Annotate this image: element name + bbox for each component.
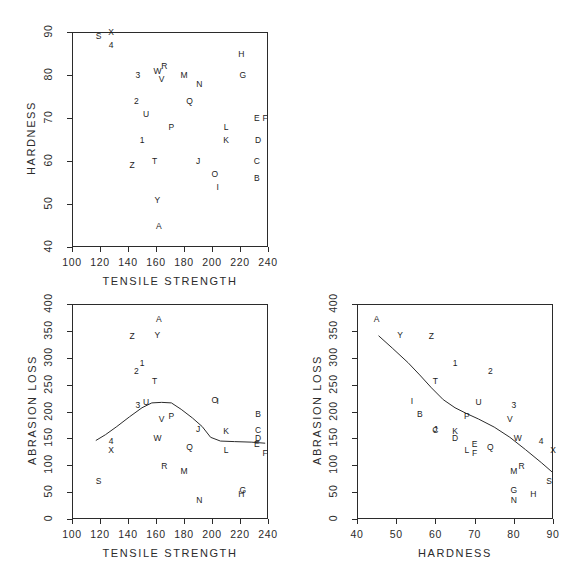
x-axis-tick (184, 519, 185, 524)
data-point-label: J (433, 424, 437, 433)
data-point-label: P (169, 412, 175, 421)
data-point-label: A (374, 315, 380, 324)
y-axis-tick-label: 80 (42, 58, 54, 90)
data-point-label: T (152, 157, 157, 166)
data-point-label: W (514, 434, 522, 443)
data-point-label: B (254, 174, 260, 183)
data-point-label: U (143, 109, 149, 118)
y-axis-tick-label: 400 (42, 287, 54, 319)
y-axis-tick (67, 118, 72, 119)
y-axis-tick (352, 492, 357, 493)
y-axis-tick-label: 60 (42, 144, 54, 176)
data-point-label: U (475, 398, 481, 407)
data-point-label: A (156, 315, 162, 324)
data-point-label: A (156, 221, 162, 230)
data-point-label: R (161, 62, 167, 71)
panel-abrasion-vs-hardness: ABRASION LOSS HARDNESS 40506070809005010… (282, 292, 570, 582)
x-axis-tick (128, 519, 129, 524)
data-point-label: N (511, 495, 517, 504)
data-point-label: 2 (488, 366, 493, 375)
y-axis-tick (352, 304, 357, 305)
data-point-label: J (196, 424, 200, 433)
data-point-label: F (472, 449, 477, 458)
panel-abrasion-vs-tensile: ABRASION LOSS TENSILE STRENGTH 100120140… (0, 292, 290, 582)
x-axis-tick-label: 200 (202, 528, 221, 540)
x-axis-tick-label: 240 (258, 256, 277, 268)
data-point-label: 1 (140, 135, 145, 144)
x-axis-tick-label: 70 (468, 528, 481, 540)
data-point-label: 1 (453, 359, 458, 368)
y-axis-tick (67, 492, 72, 493)
x-axis-tick-label: 100 (62, 528, 81, 540)
y-axis-tick (67, 331, 72, 332)
y-axis-tick (67, 32, 72, 33)
x-axis-tick-label: 160 (146, 256, 165, 268)
y-axis-tick (352, 331, 357, 332)
x-axis-tick-label: 220 (230, 256, 249, 268)
x-axis-tick (156, 519, 157, 524)
x-axis-tick (212, 247, 213, 252)
data-point-label: X (550, 446, 556, 455)
data-point-label: T (433, 377, 438, 386)
data-point-label: 3 (135, 400, 140, 409)
y-axis-title: ABRASION LOSS (311, 350, 323, 470)
data-point-label: Y (155, 331, 161, 340)
x-axis-tick (72, 247, 73, 252)
data-point-label: I (411, 397, 413, 406)
x-axis-tick-label: 180 (174, 528, 193, 540)
data-point-label: V (159, 75, 165, 84)
data-point-label: L (224, 446, 229, 455)
y-axis-tick (352, 438, 357, 439)
data-point-label: H (238, 489, 244, 498)
data-point-label: I (216, 183, 218, 192)
y-axis-tick (67, 247, 72, 248)
y-axis-tick (67, 519, 72, 520)
x-axis-tick (240, 247, 241, 252)
x-axis-tick-label: 40 (351, 528, 364, 540)
data-point-label: V (159, 415, 165, 424)
x-axis-tick-label: 180 (174, 256, 193, 268)
data-point-label: P (464, 412, 470, 421)
plot-frame (72, 32, 268, 247)
data-point-label: M (180, 467, 187, 476)
data-point-label: M (180, 71, 187, 80)
x-axis-title: TENSILE STRENGTH (72, 275, 268, 287)
y-axis-tick (352, 465, 357, 466)
x-axis-tick (100, 519, 101, 524)
data-point-label: S (546, 477, 552, 486)
plot-frame (357, 304, 553, 519)
x-axis-tick (396, 519, 397, 524)
x-axis-tick-label: 60 (429, 528, 442, 540)
y-axis-tick (352, 358, 357, 359)
y-axis-tick (67, 304, 72, 305)
data-point-label: V (507, 415, 513, 424)
data-point-label: G (510, 486, 517, 495)
y-axis-tick (352, 412, 357, 413)
data-point-label: P (169, 122, 175, 131)
data-point-label: F (263, 114, 268, 123)
x-axis-tick-label: 50 (390, 528, 403, 540)
x-axis-tick-label: 100 (62, 256, 81, 268)
y-axis-tick (352, 519, 357, 520)
data-point-label: Z (130, 331, 135, 340)
data-point-label: L (224, 122, 229, 131)
data-point-label: K (223, 135, 229, 144)
data-point-label: E (254, 114, 260, 123)
x-axis-tick-label: 220 (230, 528, 249, 540)
y-axis-tick (67, 385, 72, 386)
x-axis-tick (268, 519, 269, 524)
y-axis-tick-label: 100 (42, 448, 54, 480)
data-point-label: 3 (135, 71, 140, 80)
x-axis-tick-label: 120 (90, 528, 109, 540)
y-axis-title: ABRASION LOSS (26, 350, 38, 470)
data-point-label: L (464, 446, 469, 455)
x-axis-title: HARDNESS (357, 547, 553, 559)
data-point-label: E (254, 440, 260, 449)
data-point-label: N (196, 79, 202, 88)
x-axis-tick (514, 519, 515, 524)
y-axis-tick-label: 90 (42, 15, 54, 47)
data-point-label: 2 (134, 97, 139, 106)
data-point-label: M (510, 467, 517, 476)
x-axis-tick-label: 80 (507, 528, 520, 540)
data-point-label: R (519, 462, 525, 471)
